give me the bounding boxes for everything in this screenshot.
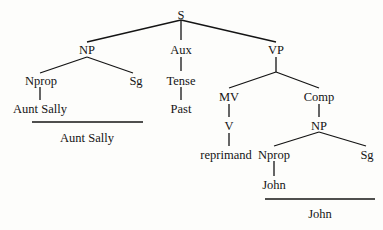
edge-NP-Sg [87,57,133,73]
node-Tense: Tense [167,74,196,88]
node-Aux: Aux [170,43,192,57]
node-Nprop-subject: Nprop [25,74,57,88]
leaf-past: Past [171,102,192,116]
node-NP-object: NP [311,119,327,133]
node-Comp: Comp [304,90,335,104]
syntax-tree-diagram: S NP Aux VP Nprop Sg Tense Aunt Sally Pa… [0,0,383,230]
leaf-reprimand: reprimand [200,148,252,162]
leaf-john: John [262,178,286,192]
edge-NP-Nprop [40,57,87,73]
edge-NP-Nprop-obj [274,132,319,146]
edge-NP-Sg-obj [319,132,366,146]
edge-VP-MV [229,72,276,88]
subject-underline-label: Aunt Sally [60,131,115,145]
node-Sg-object: Sg [360,148,374,162]
node-S: S [178,8,185,22]
node-MV: MV [219,90,239,104]
edge-VP-Comp [276,72,319,88]
leaf-aunt-sally: Aunt Sally [13,102,68,116]
edge-S-VP [181,20,276,42]
object-underline-label: John [308,207,332,221]
node-VP: VP [268,43,284,57]
node-NP-subject: NP [79,43,95,57]
edge-S-NP [87,20,181,42]
node-Nprop-object: Nprop [258,148,290,162]
node-Sg-subject: Sg [129,74,143,88]
node-V: V [224,119,233,133]
